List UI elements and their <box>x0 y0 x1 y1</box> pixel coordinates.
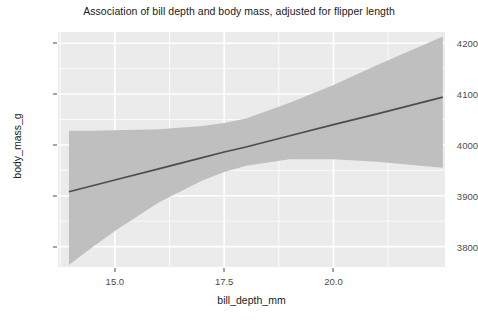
plot-canvas <box>58 32 445 267</box>
x-axis-title: bill_depth_mm <box>58 294 445 306</box>
y-tick-mark <box>53 94 57 95</box>
y-tick-mark <box>53 144 57 145</box>
chart-container: Association of bill depth and body mass,… <box>0 0 478 324</box>
chart-title: Association of bill depth and body mass,… <box>0 5 478 17</box>
plot-panel <box>58 32 445 267</box>
confidence-ribbon <box>69 37 443 265</box>
y-tick-mark <box>53 43 57 44</box>
x-tick-mark <box>333 268 334 272</box>
x-tick-label: 15.0 <box>91 276 139 287</box>
y-axis-title: body_mass_g <box>11 86 23 206</box>
y-tick-mark <box>53 195 57 196</box>
x-tick-mark <box>224 268 225 272</box>
x-tick-label: 20.0 <box>309 276 357 287</box>
y-tick-mark <box>53 246 57 247</box>
x-tick-mark <box>114 268 115 272</box>
x-tick-label: 17.5 <box>200 276 248 287</box>
